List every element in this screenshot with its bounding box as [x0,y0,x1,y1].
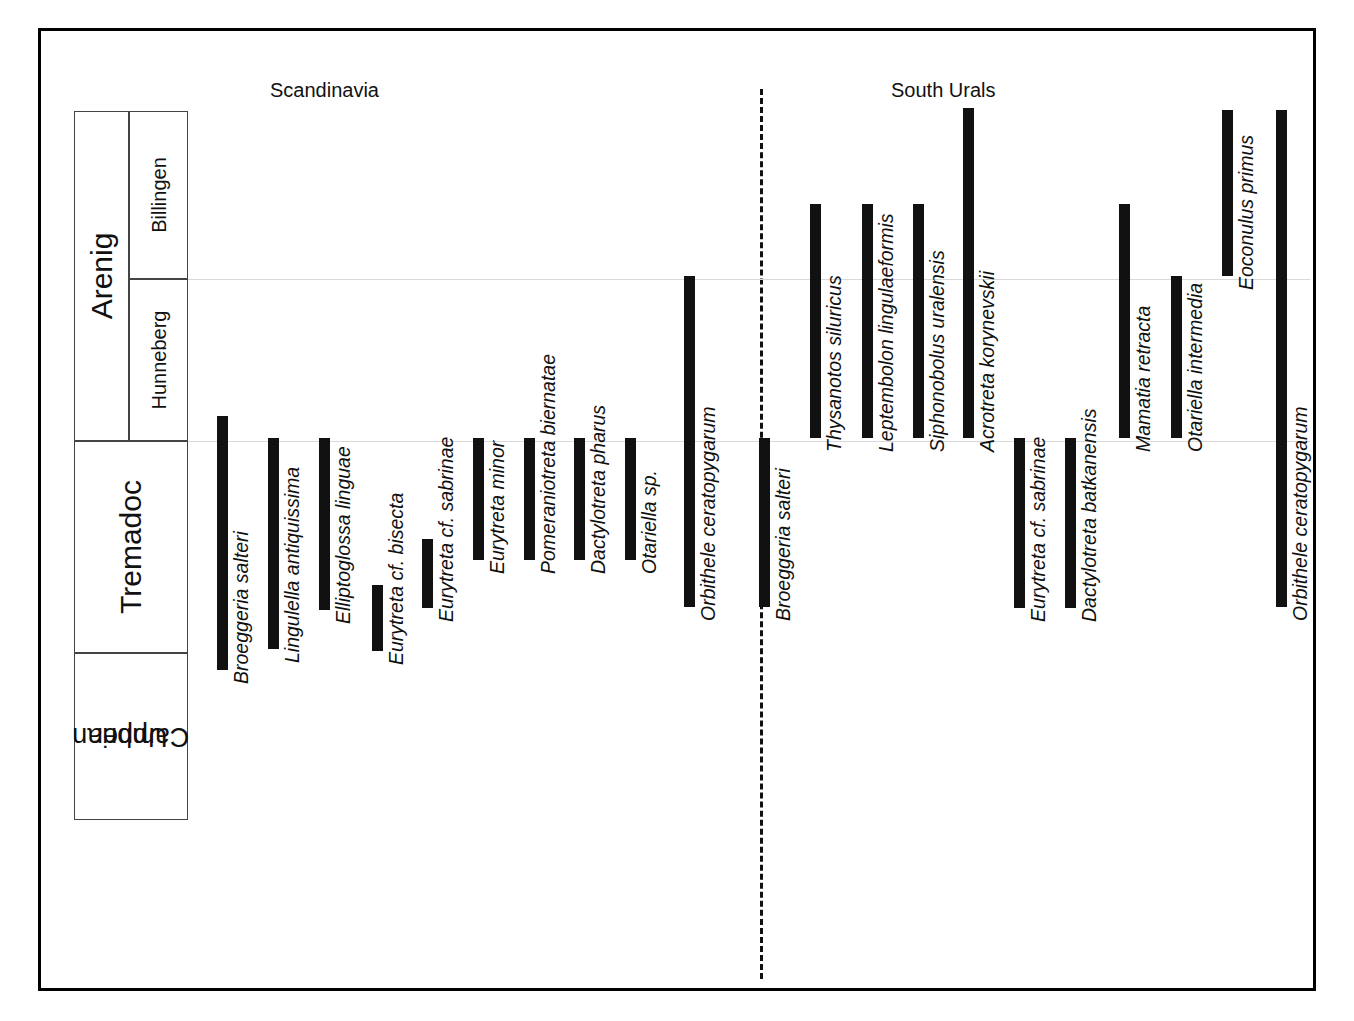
range-bar [1276,110,1287,607]
taxon-label: Eurytreta minor [486,441,509,574]
range-bar [625,438,636,560]
taxon-label: Elliptoglossa linguae [332,446,355,624]
range-bar [1014,438,1025,608]
taxon-label: Pomeraniotreta biernatae [537,354,560,574]
range-bar [473,438,484,560]
strat-series-upper-cambrian: UpperCambrian [74,653,188,820]
range-bar [1222,110,1233,276]
taxon-label: Leptembolon lingulaeformis [875,214,898,452]
range-bar [524,438,535,560]
range-bar [1065,438,1076,608]
region-title-scandinavia: Scandinavia [270,79,379,102]
strat-stage-billingen: Billingen [129,111,188,279]
range-bar [574,438,585,560]
taxon-label: Eoconulus primus [1235,135,1258,290]
taxon-label: Dactylotreta batkanensis [1078,408,1101,622]
range-bar [913,204,924,438]
taxon-label: Broeggeria salteri [772,468,795,621]
range-bar [319,438,330,610]
strat-label-billingen: Billingen [148,157,169,233]
taxon-label: Eurytreta cf. sabrinae [435,437,458,622]
figure-frame: Scandinavia South Urals Arenig Billingen… [38,28,1316,991]
range-bar [422,539,433,608]
taxon-label: Orbithele ceratopygarum [1289,406,1312,621]
range-bar [862,204,873,438]
region-title-south-urals: South Urals [891,79,996,102]
taxon-label: Orbithele ceratopygarum [697,406,720,621]
taxon-label: Otariella intermedia [1184,283,1207,452]
taxon-label: Thysanotos siluricus [823,275,846,452]
range-bar [963,108,974,438]
strat-label-upper-cambrian-line2: Cambrian [72,722,189,750]
range-bar [810,204,821,438]
strat-label-arenig: Arenig [86,233,118,320]
boundary-line-billingen-hunneberg [188,279,1310,280]
taxon-label: Mamatia retracta [1132,306,1155,452]
range-bar [759,438,770,607]
taxon-label: Eurytreta cf. sabrinae [1027,437,1050,622]
taxon-label: Dactylotreta pharus [587,405,610,574]
strat-label-hunneberg: Hunneberg [148,311,169,410]
taxon-label: Otariella sp. [638,470,661,574]
strat-label-tremadoc: Tremadoc [115,480,147,614]
range-bar [1171,276,1182,438]
strat-stage-hunneberg: Hunneberg [129,279,188,441]
range-bar [268,438,279,649]
range-bar [372,585,383,651]
strat-series-arenig: Arenig [74,111,129,441]
range-bar [217,416,228,670]
taxon-label: Acrotreta korynevskii [976,271,999,452]
range-bar [684,276,695,607]
taxon-label: Lingulella antiquissima [281,467,304,663]
taxon-label: Broeggeria salteri [230,531,253,684]
stratigraphic-range-chart: Scandinavia South Urals Arenig Billingen… [0,0,1354,1021]
strat-series-tremadoc: Tremadoc [74,441,188,653]
taxon-label: Siphonobolus uralensis [926,250,949,452]
range-bar [1119,204,1130,438]
taxon-label: Eurytreta cf. bisecta [385,493,408,665]
